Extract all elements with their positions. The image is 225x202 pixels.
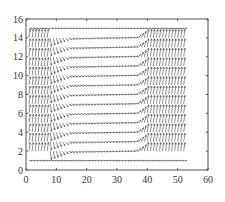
- y-tick-label: 0: [18, 165, 23, 176]
- x-tick-label: 0: [24, 174, 29, 185]
- y-tick-label: 12: [13, 51, 23, 62]
- x-tick-label: 30: [112, 174, 122, 185]
- vector-field: [29, 28, 187, 161]
- y-tick-label: 6: [18, 108, 23, 119]
- x-tick-label: 20: [82, 174, 92, 185]
- y-tick-label: 8: [18, 89, 23, 100]
- quiver-chart: 0102030405060 0246810121416: [0, 0, 225, 202]
- y-tick-label: 14: [13, 32, 23, 43]
- y-tick-label: 16: [13, 14, 23, 25]
- y-tick-label: 2: [18, 146, 23, 157]
- x-tick-label: 60: [203, 174, 213, 185]
- x-tick-label: 40: [142, 174, 152, 185]
- x-tick-label: 50: [173, 174, 183, 185]
- y-tick-label: 4: [18, 127, 23, 138]
- y-tick-label: 10: [13, 70, 23, 81]
- x-tick-label: 10: [51, 174, 61, 185]
